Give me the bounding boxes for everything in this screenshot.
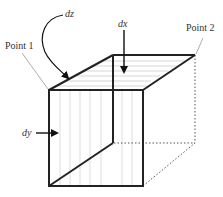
- hidden-edges: [114, 55, 195, 186]
- dz-label: dz: [65, 8, 74, 19]
- dx-label: dx: [118, 18, 128, 29]
- point1-label: Point 1: [5, 40, 34, 51]
- top-face-hatching: [56, 61, 185, 86]
- dz-arrow-icon: [42, 15, 68, 78]
- dy-label: dy: [22, 127, 32, 138]
- cube-diagram: Point 1 Point 2 dz dx dy: [0, 0, 223, 197]
- point2-leader: [196, 38, 203, 54]
- point2-label: Point 2: [186, 22, 215, 33]
- point1-leader: [22, 53, 48, 89]
